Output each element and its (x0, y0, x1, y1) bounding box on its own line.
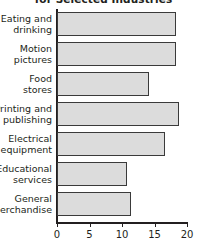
category-label-line2: publishing (3, 114, 52, 125)
category-label-line2: equipment (1, 144, 52, 155)
category-label-line2: drinking (13, 24, 52, 35)
category-label-line2: pictures (14, 54, 52, 65)
category-label: Electrical equipment (0, 129, 52, 159)
bar-chart: for Selected Industries Eating and drink… (0, 0, 207, 250)
x-axis-tick (57, 222, 58, 227)
category-label-line2: merchandise (0, 204, 52, 215)
x-axis-tick-label: 0 (44, 229, 70, 240)
category-label: Printing and publishing (0, 99, 52, 129)
bar-row: Motion pictures (0, 39, 207, 69)
bar (57, 42, 176, 66)
category-label-line1: General (15, 193, 52, 204)
bar (57, 192, 131, 216)
category-label: Eating and drinking (0, 9, 52, 39)
x-axis-tick-label: 20 (174, 229, 200, 240)
bar-row: Educational services (0, 159, 207, 189)
bar (57, 72, 149, 96)
bar (57, 12, 176, 36)
bar-row: General merchandise (0, 189, 207, 219)
category-label-line1: Food (29, 73, 52, 84)
category-label-line2: services (13, 174, 52, 185)
bar (57, 132, 165, 156)
category-label-line1: Motion (20, 43, 52, 54)
bar-row: Printing and publishing (0, 99, 207, 129)
x-axis-tick-label: 15 (142, 229, 168, 240)
category-label: General merchandise (0, 189, 52, 219)
x-axis-tick (187, 222, 188, 227)
x-axis-tick (90, 222, 91, 227)
bar-row: Electrical equipment (0, 129, 207, 159)
bar (57, 102, 179, 126)
bar-row: Food stores (0, 69, 207, 99)
category-label: Motion pictures (0, 39, 52, 69)
category-label-line1: Electrical (8, 133, 52, 144)
bar (57, 162, 127, 186)
x-axis-tick-label: 10 (109, 229, 135, 240)
bar-row: Eating and drinking (0, 9, 207, 39)
category-label-line2: stores (23, 84, 52, 95)
x-axis-tick (155, 222, 156, 227)
category-label-line1: Educational (0, 163, 52, 174)
plot-area: Eating and drinking Motion pictures Food… (0, 0, 207, 250)
category-label: Food stores (0, 69, 52, 99)
category-label: Educational services (0, 159, 52, 189)
category-label-line1: Eating and (1, 13, 52, 24)
x-axis-tick-label: 5 (77, 229, 103, 240)
category-label-line1: Printing and (0, 103, 52, 114)
x-axis-tick (122, 222, 123, 227)
